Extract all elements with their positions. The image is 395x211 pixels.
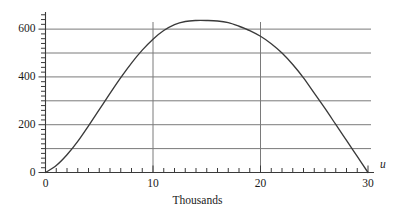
y-axis-tick-label: 600 [18,23,35,35]
vertical-gridlines [153,22,261,173]
y-axis-tick-label: 200 [18,119,35,131]
chart-container: 02004006000102030 Thousands u [0,0,395,211]
x-axis-tick-label: 30 [348,178,388,190]
x-axis-tick-label: 20 [241,178,281,190]
data-curve [46,20,369,172]
x-axis-tick-label: 0 [26,178,66,190]
y-axis [39,12,46,173]
x-axis-title: Thousands [0,195,395,207]
y-axis-tick-label: 400 [18,71,35,83]
x-axis-tick-label: 10 [133,178,173,190]
x-axis [46,166,375,173]
x-axis-variable-label: u [380,159,386,171]
curve-path [46,20,369,172]
horizontal-gridlines [46,29,372,148]
y-axis-tick-label: 0 [30,167,36,179]
